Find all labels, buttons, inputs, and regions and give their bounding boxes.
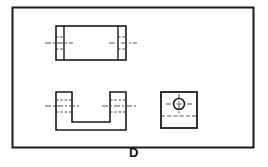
figure-label: D	[0, 146, 268, 160]
drawing-canvas	[0, 0, 268, 167]
sheet-background	[0, 0, 268, 167]
drawing-sheet	[0, 0, 268, 167]
